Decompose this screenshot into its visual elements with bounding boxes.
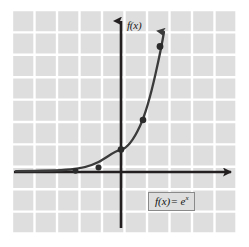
- data-point: [118, 146, 125, 153]
- data-point: [73, 168, 79, 174]
- data-point: [157, 43, 164, 50]
- exponential-curve: [12, 10, 237, 234]
- equation-exponent: x: [185, 194, 188, 202]
- exponential-function-figure: f(x) x f(x)=ex: [0, 0, 249, 247]
- equation-annotation: f(x)=ex: [148, 192, 195, 211]
- y-axis-label: f(x): [127, 19, 141, 31]
- curve-path: [16, 32, 164, 171]
- equation-equals-sign: =: [170, 195, 180, 207]
- data-point: [140, 117, 147, 124]
- data-point: [96, 165, 102, 171]
- curve-data-points: [73, 43, 164, 174]
- equation-function-name: f(x): [155, 195, 170, 207]
- plot-area: f(x) x: [12, 10, 237, 234]
